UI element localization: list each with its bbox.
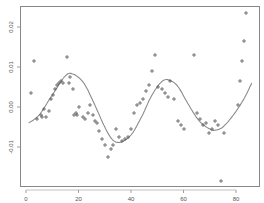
y-axis: -0.010.000.010.02	[8, 21, 21, 154]
x-tick-label: 80	[233, 196, 240, 202]
y-tick-label: 0.01	[8, 61, 14, 73]
scatter-plot-with-fit: -0.010.000.010.02 020406080	[0, 0, 264, 203]
x-tick-label: 0	[24, 196, 28, 202]
y-tick-label: 0.02	[8, 21, 14, 33]
x-axis: 020406080	[24, 190, 240, 202]
y-tick-label: -0.01	[8, 140, 14, 154]
x-tick-label: 60	[180, 196, 187, 202]
x-tick-label: 40	[128, 196, 135, 202]
x-tick-label: 20	[75, 196, 82, 202]
plot-frame	[21, 7, 260, 187]
y-tick-label: 0.00	[8, 101, 14, 113]
